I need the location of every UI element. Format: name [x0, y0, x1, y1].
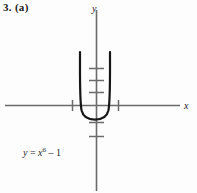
equation-tail: – 1 [46, 147, 61, 158]
curve-y-equals-x6-minus-1 [80, 52, 110, 120]
equation-equals: = [27, 147, 38, 158]
y-axis-label: y [91, 3, 97, 14]
x-axis-label: x [183, 100, 189, 111]
equation-annotation: y = x6 – 1 [23, 146, 61, 158]
graph-plot: x y [0, 0, 197, 193]
figure-container: 3. (a) x y y = x6 – 1 [0, 0, 197, 193]
